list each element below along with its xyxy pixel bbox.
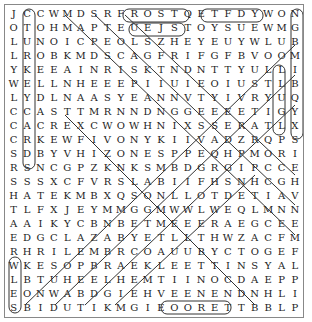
grid-cell[interactable]: T [101,21,114,35]
grid-cell[interactable]: C [7,133,20,147]
grid-cell[interactable]: T [154,231,167,245]
grid-cell[interactable]: G [221,161,234,175]
grid-cell[interactable]: W [221,231,234,245]
grid-cell[interactable]: N [34,161,47,175]
grid-cell[interactable]: A [20,119,33,133]
grid-cell[interactable]: G [261,245,274,259]
grid-cell[interactable]: L [168,189,181,203]
grid-cell[interactable]: A [248,231,261,245]
grid-cell[interactable]: C [20,7,33,21]
grid-cell[interactable]: X [288,119,301,133]
grid-cell[interactable]: N [34,35,47,49]
grid-cell[interactable]: P [74,161,87,175]
grid-cell[interactable]: A [74,21,87,35]
grid-cell[interactable]: E [181,259,194,273]
grid-cell[interactable]: R [168,49,181,63]
grid-cell[interactable]: O [141,7,154,21]
grid-cell[interactable]: B [20,301,33,315]
grid-cell[interactable]: A [221,217,234,231]
grid-cell[interactable]: H [248,175,261,189]
grid-cell[interactable]: H [20,245,33,259]
grid-cell[interactable]: T [74,105,87,119]
grid-cell[interactable]: V [194,133,207,147]
grid-cell[interactable]: A [20,189,33,203]
grid-cell[interactable]: I [181,133,194,147]
grid-cell[interactable]: L [194,203,207,217]
grid-cell[interactable]: O [141,189,154,203]
grid-cell[interactable]: B [288,77,301,91]
grid-cell[interactable]: Y [208,245,221,259]
grid-cell[interactable]: I [168,133,181,147]
grid-cell[interactable]: C [7,105,20,119]
grid-cell[interactable]: E [275,245,288,259]
grid-cell[interactable]: M [101,203,114,217]
grid-cell[interactable]: B [101,245,114,259]
grid-cell[interactable]: E [288,161,301,175]
grid-cell[interactable]: N [128,133,141,147]
grid-cell[interactable]: D [235,273,248,287]
grid-cell[interactable]: R [20,49,33,63]
grid-cell[interactable]: I [168,119,181,133]
grid-cell[interactable]: G [194,161,207,175]
grid-cell[interactable]: Z [154,35,167,49]
grid-cell[interactable]: J [154,21,167,35]
grid-cell[interactable]: N [154,105,167,119]
grid-cell[interactable]: K [128,161,141,175]
grid-cell[interactable]: V [235,91,248,105]
grid-cell[interactable]: O [168,301,181,315]
grid-cell[interactable]: S [221,175,234,189]
grid-cell[interactable]: W [208,203,221,217]
grid-cell[interactable]: F [288,245,301,259]
grid-cell[interactable]: E [208,301,221,315]
grid-cell[interactable]: O [141,245,154,259]
grid-cell[interactable]: F [154,49,167,63]
grid-cell[interactable]: F [221,7,234,21]
grid-cell[interactable]: D [141,105,154,119]
grid-cell[interactable]: G [168,105,181,119]
grid-cell[interactable]: P [168,147,181,161]
grid-cell[interactable]: N [61,91,74,105]
grid-cell[interactable]: E [61,119,74,133]
grid-cell[interactable]: E [221,119,234,133]
grid-cell[interactable]: O [34,49,47,63]
grid-cell[interactable]: E [288,217,301,231]
grid-cell[interactable]: N [168,63,181,77]
grid-cell[interactable]: N [114,105,127,119]
grid-cell[interactable]: V [288,189,301,203]
grid-cell[interactable]: W [61,133,74,147]
grid-cell[interactable]: I [168,175,181,189]
grid-cell[interactable]: R [114,245,127,259]
grid-cell[interactable]: I [288,63,301,77]
grid-cell[interactable]: E [34,259,47,273]
grid-cell[interactable]: Y [261,259,274,273]
grid-cell[interactable]: W [261,7,274,21]
grid-cell[interactable]: W [181,203,194,217]
grid-cell[interactable]: E [7,287,20,301]
grid-cell[interactable]: C [261,217,274,231]
grid-cell[interactable]: L [128,35,141,49]
grid-cell[interactable]: O [261,147,274,161]
grid-cell[interactable]: W [248,35,261,49]
grid-cell[interactable]: D [235,7,248,21]
grid-cell[interactable]: T [34,273,47,287]
grid-cell[interactable]: W [101,119,114,133]
grid-cell[interactable]: L [7,49,20,63]
grid-cell[interactable]: Y [87,203,100,217]
grid-cell[interactable]: B [20,273,33,287]
grid-cell[interactable]: I [181,77,194,91]
grid-cell[interactable]: Y [20,91,33,105]
grid-cell[interactable]: C [20,105,33,119]
grid-cell[interactable]: N [275,203,288,217]
grid-cell[interactable]: H [168,35,181,49]
grid-cell[interactable]: L [275,63,288,77]
grid-cell[interactable]: B [235,49,248,63]
grid-cell[interactable]: I [181,273,194,287]
grid-cell[interactable]: E [194,77,207,91]
grid-cell[interactable]: Y [248,7,261,21]
grid-cell[interactable]: E [101,35,114,49]
grid-cell[interactable]: S [194,119,207,133]
grid-cell[interactable]: I [87,147,100,161]
grid-cell[interactable]: X [101,189,114,203]
grid-cell[interactable]: I [114,287,127,301]
grid-cell[interactable]: L [168,231,181,245]
